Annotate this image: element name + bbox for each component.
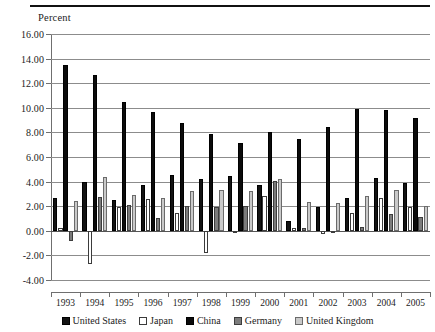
- x-tick-label-1996: 1996: [144, 298, 163, 308]
- x-tick-label-1999: 1999: [231, 298, 250, 308]
- x-tick-mark: [255, 292, 256, 297]
- gridline--4.00: [51, 280, 430, 281]
- legend-item-uk[interactable]: United Kingdom: [295, 315, 374, 326]
- bar-us-2004: [374, 178, 378, 231]
- legend-label: China: [197, 315, 221, 326]
- top-rule: [30, 5, 430, 7]
- legend-label: United Kingdom: [306, 315, 374, 326]
- x-tick-mark: [51, 292, 52, 297]
- bar-group-1998: [197, 34, 226, 280]
- bar-de-2000: [273, 181, 277, 231]
- y-tick-mark: [46, 280, 51, 281]
- chart-legend: United StatesJapanChinaGermanyUnited Kin…: [0, 315, 435, 326]
- bar-cn-2001: [297, 139, 301, 231]
- bar-group-1996: [138, 34, 167, 280]
- bar-uk-2002: [336, 203, 340, 231]
- bar-de-1997: [185, 206, 189, 231]
- bar-jp-2000: [262, 196, 266, 231]
- bar-uk-1999: [249, 191, 253, 230]
- bar-us-1995: [112, 200, 116, 231]
- legend-swatch-icon-cn: [186, 317, 194, 325]
- bar-cn-2004: [384, 110, 388, 231]
- bar-cn-2002: [326, 127, 330, 230]
- bar-jp-2004: [379, 198, 383, 231]
- bar-us-1998: [199, 179, 203, 231]
- bar-jp-2001: [292, 228, 296, 230]
- bar-de-1995: [127, 205, 131, 231]
- bar-uk-1993: [74, 201, 78, 231]
- bar-jp-2002: [321, 231, 325, 235]
- bar-us-1994: [82, 182, 86, 231]
- y-tick-label: 4.00: [26, 176, 44, 187]
- x-tick-label-1998: 1998: [202, 298, 221, 308]
- y-tick-label: -4.00: [23, 275, 44, 286]
- x-tick-label-2005: 2005: [406, 298, 425, 308]
- bar-group-1993: [51, 34, 80, 280]
- bar-group-1999: [226, 34, 255, 280]
- bar-uk-2004: [394, 190, 398, 231]
- bar-group-1995: [109, 34, 138, 280]
- bar-uk-2001: [307, 202, 311, 231]
- x-tick-mark: [138, 292, 139, 297]
- bar-uk-2005: [424, 206, 428, 231]
- legend-swatch-icon-jp: [139, 317, 147, 325]
- x-tick-mark: [343, 292, 344, 297]
- y-tick-label: 14.00: [21, 53, 44, 64]
- y-tick-label: 12.00: [21, 78, 44, 89]
- bar-cn-2003: [355, 109, 359, 231]
- bar-jp-1997: [175, 213, 179, 231]
- bar-de-2002: [331, 231, 335, 233]
- x-tick-mark: [197, 292, 198, 297]
- bar-uk-2000: [278, 179, 282, 231]
- x-tick-mark: [80, 292, 81, 297]
- bar-us-2002: [316, 207, 320, 230]
- bar-jp-1995: [117, 207, 121, 231]
- legend-swatch-icon-us: [62, 317, 70, 325]
- bar-de-2003: [360, 227, 364, 231]
- x-tick-label-2001: 2001: [289, 298, 308, 308]
- bar-jp-1999: [233, 231, 237, 233]
- bar-cn-1996: [151, 112, 155, 231]
- bar-cn-1994: [93, 75, 97, 231]
- bar-de-2005: [418, 217, 422, 231]
- legend-label: Japan: [150, 315, 173, 326]
- bar-jp-1998: [204, 231, 208, 253]
- legend-item-us[interactable]: United States: [62, 315, 127, 326]
- x-tick-mark: [168, 292, 169, 297]
- y-tick-label: 0.00: [26, 225, 44, 236]
- bar-de-1994: [98, 197, 102, 231]
- y-tick-label: 8.00: [26, 127, 44, 138]
- bar-cn-2005: [413, 118, 417, 231]
- x-tick-label-1995: 1995: [114, 298, 133, 308]
- x-axis-line: [51, 292, 430, 293]
- legend-swatch-icon-uk: [295, 317, 303, 325]
- x-tick-label-2002: 2002: [318, 298, 337, 308]
- bar-uk-2003: [365, 196, 369, 231]
- bar-uk-1998: [219, 190, 223, 231]
- x-tick-label-1994: 1994: [85, 298, 104, 308]
- bar-de-2004: [389, 214, 393, 231]
- plot-area: 16.0014.0012.0010.008.006.004.002.000.00…: [51, 34, 430, 280]
- bar-jp-2003: [350, 213, 354, 231]
- x-tick-mark: [284, 292, 285, 297]
- legend-item-cn[interactable]: China: [186, 315, 221, 326]
- y-axis-title: Percent: [38, 12, 71, 23]
- legend-swatch-icon-de: [234, 317, 242, 325]
- bar-de-1993: [69, 231, 73, 241]
- bar-cn-2000: [268, 132, 272, 230]
- bar-group-2005: [401, 34, 430, 280]
- bar-group-2000: [255, 34, 284, 280]
- legend-label: United States: [73, 315, 127, 326]
- x-tick-label-2004: 2004: [377, 298, 396, 308]
- bar-jp-1996: [146, 199, 150, 231]
- bar-group-1997: [168, 34, 197, 280]
- bar-us-1993: [53, 198, 57, 231]
- legend-item-jp[interactable]: Japan: [139, 315, 173, 326]
- bar-cn-1997: [180, 123, 184, 231]
- x-tick-mark: [313, 292, 314, 297]
- bar-us-1997: [170, 175, 174, 230]
- y-tick-label: 6.00: [26, 152, 44, 163]
- bar-group-2001: [284, 34, 313, 280]
- legend-item-de[interactable]: Germany: [234, 315, 282, 326]
- bar-jp-1994: [88, 231, 92, 264]
